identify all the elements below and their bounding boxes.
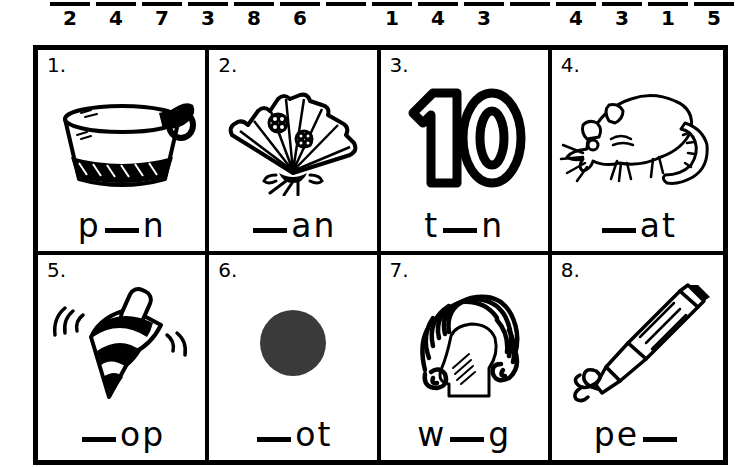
word-letters-before: p <box>78 206 101 245</box>
answer-blank-slot[interactable]: 2 <box>48 0 92 29</box>
rat-icon <box>557 83 717 193</box>
answer-blank-number <box>508 7 552 29</box>
worksheet-cell[interactable]: 4. at <box>552 50 723 255</box>
answer-blank-number: 1 <box>646 7 690 29</box>
answer-blank-slot[interactable]: 3 <box>600 0 644 29</box>
answer-blank-slot[interactable]: 4 <box>554 0 598 29</box>
worksheet-cell[interactable]: 2. an <box>209 50 380 255</box>
cell-word-prompt[interactable]: pe <box>552 416 723 454</box>
word-letters-before: pe <box>594 415 639 454</box>
folding-fan-icon <box>209 72 376 204</box>
word-letters-before: t <box>424 206 439 245</box>
answer-blank-number: 4 <box>416 7 460 29</box>
worksheet-grid: 1. pn2. <box>33 45 728 465</box>
answer-blank-slot[interactable] <box>508 0 552 29</box>
missing-letter-blank[interactable] <box>257 437 291 442</box>
dot-icon <box>248 298 338 388</box>
worksheet-cell[interactable]: 3. tn <box>381 50 552 255</box>
answer-blank-number: 6 <box>278 7 322 29</box>
answer-blank-slot[interactable]: 3 <box>186 0 230 29</box>
answer-blank-slot[interactable]: 5 <box>692 0 736 29</box>
missing-letter-blank[interactable] <box>443 228 477 233</box>
wig-icon <box>389 284 539 402</box>
answer-blank-slot[interactable]: 7 <box>140 0 184 29</box>
answer-blank-number: 4 <box>94 7 138 29</box>
number-ten-icon <box>381 72 548 204</box>
answer-blank-number: 2 <box>48 7 92 29</box>
cell-word-prompt[interactable]: pn <box>38 207 205 245</box>
missing-letter-blank[interactable] <box>643 437 677 442</box>
word-letters-after: an <box>291 206 336 245</box>
answer-blank-number: 7 <box>140 7 184 29</box>
answer-blank-number: 4 <box>554 7 598 29</box>
cell-word-prompt[interactable]: an <box>209 207 376 245</box>
cell-word-prompt[interactable]: ot <box>209 416 376 454</box>
answer-number-blanks: 247386 143 4315 <box>0 0 744 32</box>
dot-icon <box>209 277 376 409</box>
word-letters-after: n <box>143 206 166 245</box>
answer-blank-slot[interactable]: 1 <box>370 0 414 29</box>
pen-icon <box>562 281 712 406</box>
answer-blank-number: 3 <box>600 7 644 29</box>
cell-word-prompt[interactable]: wg <box>381 416 548 454</box>
answer-blank-slot[interactable] <box>324 0 368 29</box>
worksheet-cell[interactable]: 6. ot <box>209 255 380 460</box>
saucepan-icon <box>38 72 205 204</box>
missing-letter-blank[interactable] <box>602 228 636 233</box>
missing-letter-blank[interactable] <box>253 228 287 233</box>
rat-icon <box>552 72 723 204</box>
answer-blank-number: 8 <box>232 7 276 29</box>
answer-blank-slot[interactable]: 6 <box>278 0 322 29</box>
missing-letter-blank[interactable] <box>450 437 484 442</box>
word-letters-after: ot <box>295 415 332 454</box>
answer-blank-slot[interactable]: 8 <box>232 0 276 29</box>
answer-blank-number <box>324 7 368 29</box>
missing-letter-blank[interactable] <box>105 228 139 233</box>
pen-icon <box>552 277 723 409</box>
answer-blank-slot[interactable]: 1 <box>646 0 690 29</box>
cell-word-prompt[interactable]: at <box>552 207 723 245</box>
missing-letter-blank[interactable] <box>82 437 116 442</box>
word-letters-after: n <box>481 206 504 245</box>
worksheet-cell[interactable]: 8. pe <box>552 255 723 460</box>
worksheet-cell[interactable]: 7. wg <box>381 255 552 460</box>
answer-blank-number: 5 <box>692 7 736 29</box>
answer-blank-number: 3 <box>462 7 506 29</box>
saucepan-icon <box>47 83 197 193</box>
word-letters-after: op <box>120 415 165 454</box>
wig-icon <box>381 277 548 409</box>
cell-word-prompt[interactable]: tn <box>381 207 548 245</box>
number-ten-icon <box>399 79 529 197</box>
answer-blank-number: 3 <box>186 7 230 29</box>
folding-fan-icon <box>218 81 368 196</box>
answer-blank-slot[interactable]: 3 <box>462 0 506 29</box>
answer-blank-number: 1 <box>370 7 414 29</box>
spinning-top-icon <box>47 283 197 403</box>
word-letters-after: at <box>640 206 677 245</box>
worksheet-cell[interactable]: 5. op <box>38 255 209 460</box>
cell-word-prompt[interactable]: op <box>38 416 205 454</box>
worksheet-cell[interactable]: 1. pn <box>38 50 209 255</box>
word-letters-after: g <box>488 415 511 454</box>
answer-blank-slot[interactable]: 4 <box>94 0 138 29</box>
spinning-top-icon <box>38 277 205 409</box>
answer-blank-slot[interactable]: 4 <box>416 0 460 29</box>
word-letters-before: w <box>417 415 446 454</box>
